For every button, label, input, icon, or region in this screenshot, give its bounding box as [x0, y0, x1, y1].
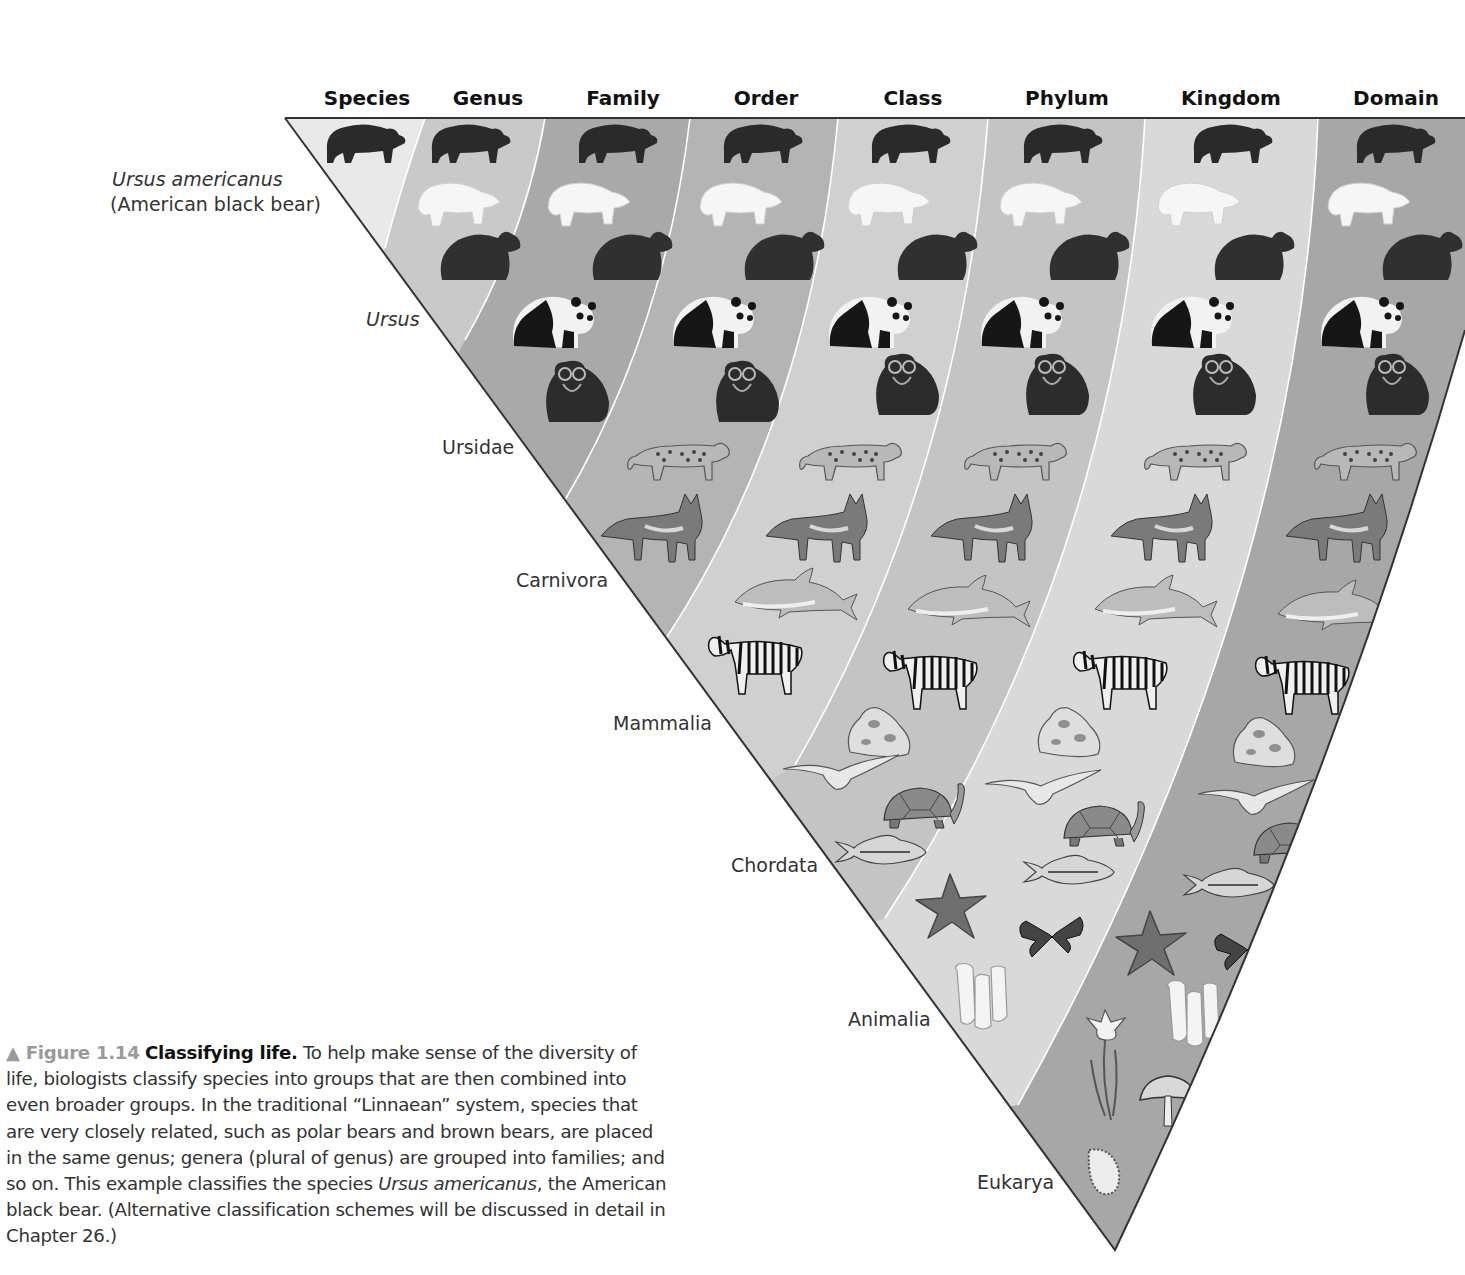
- caption-text: To help make sense of the diversity of l…: [6, 1042, 665, 1194]
- family-label: Ursidae: [442, 436, 514, 458]
- species-name-label: Ursus americanus: [112, 168, 283, 190]
- domain-label: Eukarya: [977, 1171, 1054, 1193]
- figure-caption: ▲ Figure 1.14 Classifying life. To help …: [6, 1040, 671, 1250]
- order-label: Carnivora: [516, 569, 608, 591]
- genus-label: Ursus: [366, 308, 420, 330]
- kingdom-label: Animalia: [848, 1008, 931, 1030]
- caption-species-italic: Ursus americanus: [378, 1173, 537, 1194]
- figure-number: ▲ Figure 1.14: [6, 1042, 140, 1063]
- species-common-name-label: (American black bear): [110, 193, 321, 215]
- class-label: Mammalia: [613, 712, 712, 734]
- caption-title: Classifying life.: [145, 1042, 298, 1063]
- phylum-label: Chordata: [731, 854, 818, 876]
